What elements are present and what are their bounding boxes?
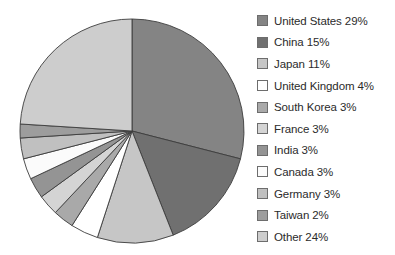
legend-item[interactable]: India 3% [257, 140, 395, 162]
legend-item[interactable]: Canada 3% [257, 161, 395, 183]
legend-swatch-icon [257, 58, 268, 69]
legend-item-label: Canada 3% [274, 166, 333, 178]
pie-chart-figure: United States 29%China 15%Japan 11%Unite… [0, 0, 395, 255]
legend-item-label: India 3% [274, 144, 318, 156]
legend-swatch-icon [257, 188, 268, 199]
legend-item-label: United States 29% [274, 15, 368, 27]
legend-item-label: Germany 3% [274, 188, 340, 200]
legend-item-label: Japan 11% [274, 58, 330, 70]
legend-swatch-icon [257, 37, 268, 48]
legend-item[interactable]: Other 24% [257, 226, 395, 248]
legend-item[interactable]: France 3% [257, 118, 395, 140]
legend-swatch-icon [257, 145, 268, 156]
legend-item-label: Other 24% [274, 231, 328, 243]
legend-item-label: France 3% [274, 123, 329, 135]
legend-swatch-icon [257, 210, 268, 221]
legend-item[interactable]: China 15% [257, 32, 395, 54]
legend-item-label: Taiwan 2% [274, 209, 329, 221]
legend-item[interactable]: Taiwan 2% [257, 204, 395, 226]
legend-item-label: United Kingdom 4% [274, 80, 374, 92]
legend-item[interactable]: Japan 11% [257, 53, 395, 75]
legend-item-label: China 15% [274, 36, 329, 48]
chart-legend: United States 29%China 15%Japan 11%Unite… [257, 10, 395, 248]
legend-item[interactable]: United States 29% [257, 10, 395, 32]
legend-item[interactable]: Germany 3% [257, 183, 395, 205]
legend-swatch-icon [257, 231, 268, 242]
legend-swatch-icon [257, 80, 268, 91]
pie-slice-group [20, 19, 244, 243]
legend-swatch-icon [257, 123, 268, 134]
legend-item[interactable]: United Kingdom 4% [257, 75, 395, 97]
pie-chart [19, 18, 245, 244]
legend-swatch-icon [257, 166, 268, 177]
legend-swatch-icon [257, 15, 268, 26]
pie-slice[interactable] [20, 19, 132, 131]
legend-item-label: South Korea 3% [274, 101, 356, 113]
legend-swatch-icon [257, 102, 268, 113]
legend-item[interactable]: South Korea 3% [257, 96, 395, 118]
